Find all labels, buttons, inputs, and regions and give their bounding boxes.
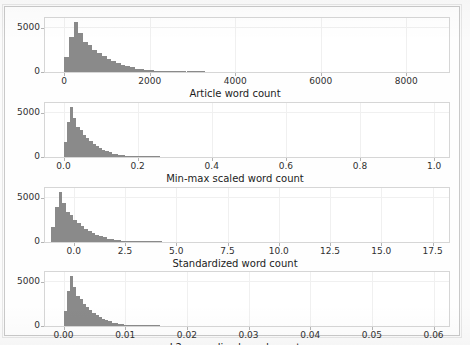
y-tick-label: 0 [0, 67, 40, 76]
x-tick-mark [406, 73, 407, 76]
gridline-vertical [330, 188, 331, 242]
x-tick-label: 0.0 [56, 161, 70, 171]
y-tick-mark [41, 28, 44, 29]
x-tick-mark [381, 243, 382, 246]
y-tick-label: 0 [0, 152, 40, 161]
x-tick-label: 10.0 [269, 246, 289, 256]
gridline-vertical [212, 103, 213, 157]
x-tick-mark [360, 158, 361, 161]
x-tick-label: 0.01 [115, 330, 135, 340]
x-tick-mark [228, 243, 229, 246]
x-axis-label-2: Standardized word count [0, 258, 470, 269]
x-tick-label: 0.04 [300, 330, 320, 340]
y-tick-label: 0 [0, 321, 40, 330]
x-tick-mark [64, 158, 65, 161]
gridline-vertical [138, 103, 139, 157]
plot-area-1 [44, 102, 450, 158]
x-tick-mark [187, 327, 188, 330]
x-tick-label: 0.6 [279, 161, 293, 171]
x-tick-label: 15.0 [371, 246, 391, 256]
y-tick-label: 5000 [0, 108, 40, 117]
y-tick-mark [41, 326, 44, 327]
gridline-vertical [372, 272, 373, 326]
x-tick-mark [138, 158, 139, 161]
gridline-vertical [360, 103, 361, 157]
y-tick-mark [41, 282, 44, 283]
x-tick-mark [434, 327, 435, 330]
gridline-vertical [228, 188, 229, 242]
gridline-horizontal [45, 281, 449, 282]
x-tick-label: 0.4 [205, 161, 219, 171]
x-tick-mark [64, 327, 65, 330]
x-tick-label: 0.00 [53, 330, 73, 340]
x-tick-label: 4000 [224, 76, 247, 86]
gridline-vertical [381, 188, 382, 242]
histogram-bar [157, 325, 160, 326]
gridline-vertical [321, 18, 322, 72]
x-tick-label: 0 [61, 76, 67, 86]
histogram-figure: 0500002000400060008000Article word count… [0, 0, 470, 345]
gridline-vertical [286, 103, 287, 157]
x-tick-mark [321, 73, 322, 76]
x-tick-label: 0.8 [353, 161, 367, 171]
gridline-horizontal [45, 27, 449, 28]
x-tick-label: 0.05 [362, 330, 382, 340]
x-tick-mark [212, 158, 213, 161]
x-tick-mark [64, 73, 65, 76]
y-tick-label: 5000 [0, 23, 40, 32]
plot-area-3 [44, 271, 450, 327]
y-tick-mark [41, 72, 44, 73]
histogram-bar [201, 71, 206, 72]
histogram-bar [157, 156, 160, 157]
histogram-bar [158, 241, 162, 242]
x-tick-mark [176, 243, 177, 246]
gridline-vertical [125, 188, 126, 242]
x-tick-label: 17.5 [423, 246, 443, 256]
x-tick-mark [433, 243, 434, 246]
x-axis-label-1: Min-max scaled word count [0, 173, 470, 184]
x-tick-mark [249, 327, 250, 330]
x-tick-mark [372, 327, 373, 330]
plot-area-0 [44, 17, 450, 73]
x-tick-label: 7.5 [220, 246, 234, 256]
gridline-vertical [187, 272, 188, 326]
x-tick-mark [125, 327, 126, 330]
gridline-vertical [310, 272, 311, 326]
y-tick-mark [41, 242, 44, 243]
x-tick-mark [150, 73, 151, 76]
y-tick-mark [41, 198, 44, 199]
x-tick-label: 8000 [395, 76, 418, 86]
gridline-vertical [279, 188, 280, 242]
gridline-vertical [434, 103, 435, 157]
x-tick-mark [286, 158, 287, 161]
x-tick-label: 0.02 [177, 330, 197, 340]
x-tick-mark [330, 243, 331, 246]
x-tick-label: 2.5 [118, 246, 132, 256]
gridline-vertical [433, 188, 434, 242]
x-tick-label: 0.03 [239, 330, 259, 340]
gridline-vertical [125, 272, 126, 326]
plot-area-2 [44, 187, 450, 243]
x-tick-label: 2000 [138, 76, 161, 86]
y-tick-mark [41, 157, 44, 158]
gridline-vertical [150, 18, 151, 72]
x-tick-mark [434, 158, 435, 161]
x-tick-mark [125, 243, 126, 246]
gridline-vertical [235, 18, 236, 72]
x-tick-mark [279, 243, 280, 246]
x-tick-label: 6000 [309, 76, 332, 86]
x-tick-mark [310, 327, 311, 330]
gridline-vertical [406, 18, 407, 72]
x-tick-label: 0.2 [130, 161, 144, 171]
x-tick-label: 1.0 [427, 161, 441, 171]
y-tick-label: 0 [0, 237, 40, 246]
x-tick-mark [74, 243, 75, 246]
y-tick-label: 5000 [0, 193, 40, 202]
gridline-vertical [434, 272, 435, 326]
gridline-vertical [249, 272, 250, 326]
gridline-horizontal [45, 112, 449, 113]
y-tick-label: 5000 [0, 277, 40, 286]
x-tick-label: 0.0 [67, 246, 81, 256]
x-tick-label: 0.06 [424, 330, 444, 340]
x-tick-label: 12.5 [320, 246, 340, 256]
